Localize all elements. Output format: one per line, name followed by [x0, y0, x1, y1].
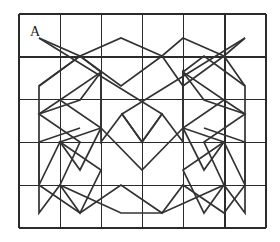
figure-container: A: [0, 0, 280, 242]
vertex-label-a: A: [30, 24, 41, 39]
geometric-figure: A: [0, 0, 280, 242]
